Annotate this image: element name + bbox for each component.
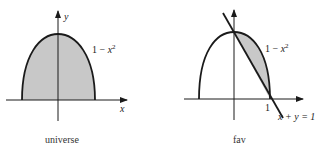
tick-label-one: 1	[265, 102, 270, 113]
caption-fav: fav	[233, 134, 246, 145]
universe-diagram: y x 1 − x2 universe	[6, 11, 127, 145]
curve-label: 1 − x2	[265, 42, 289, 54]
diagram-canvas: y x 1 − x2 universe 1 − x2 1 x + y = 1 f…	[0, 0, 328, 151]
line-label: x + y = 1	[277, 111, 315, 122]
fav-diagram: 1 − x2 1 x + y = 1 fav	[184, 10, 315, 145]
line-x-plus-y-eq-1	[223, 13, 283, 118]
caption-universe: universe	[45, 134, 79, 145]
y-axis-label: y	[63, 11, 69, 22]
curve-label: 1 − x2	[92, 43, 116, 55]
x-axis-label: x	[119, 103, 125, 114]
